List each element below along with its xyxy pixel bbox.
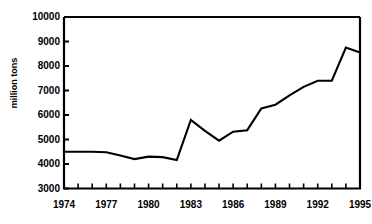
chart-container: million tons 300040005000600070008000900… <box>0 0 372 224</box>
axis-frame-path <box>64 17 360 189</box>
data-series-line <box>64 48 360 160</box>
plot-area <box>0 0 372 224</box>
axis-frame <box>64 17 360 189</box>
